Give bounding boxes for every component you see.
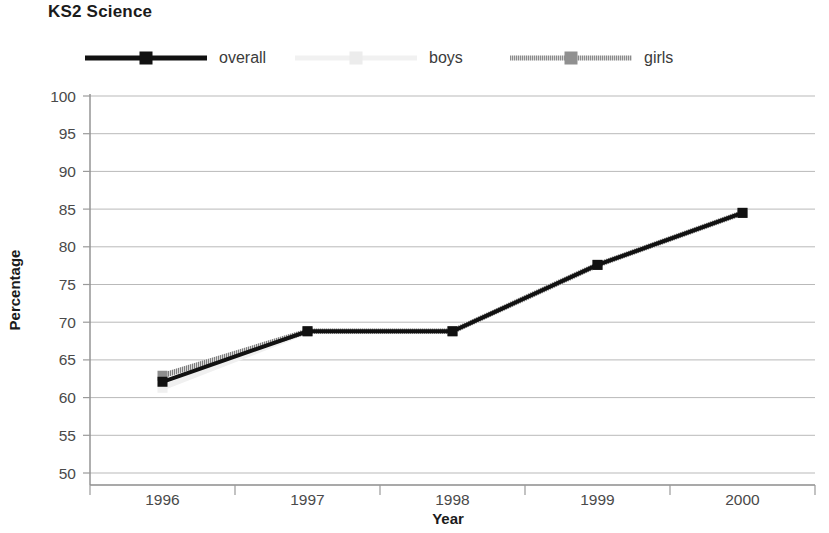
y-tick-label: 70 [59,314,77,331]
plot-area: 50556065707580859095100 1996199719981999… [0,0,829,533]
data-point-overall-1998 [448,326,458,336]
data-point-overall-1996 [158,377,168,387]
x-axis-ticks: 19961997199819992000 [90,485,815,508]
x-tick-label: 1997 [290,491,324,508]
x-axis-title: Year [432,510,464,527]
x-tick-label: 1996 [145,491,179,508]
y-tick-label: 55 [59,427,76,444]
y-tick-label: 65 [59,351,76,368]
y-tick-label: 90 [59,163,77,180]
gridlines [90,96,815,473]
axis-lines [90,94,815,485]
y-tick-label: 50 [59,465,77,482]
y-tick-label: 85 [59,201,76,218]
y-tick-label: 80 [59,238,77,255]
y-tick-label: 60 [59,389,77,406]
x-tick-label: 2000 [725,491,760,508]
series-line-boys [163,213,743,388]
chart-container: KS2 Science overall boys girls [0,0,829,533]
data-point-overall-1997 [303,326,313,336]
y-tick-label: 75 [59,276,76,293]
y-axis-title: Percentage [6,250,23,331]
y-axis-ticks: 50556065707580859095100 [50,88,90,482]
x-tick-label: 1999 [580,491,614,508]
data-point-overall-1999 [593,260,603,270]
y-tick-label: 95 [59,125,76,142]
x-tick-label: 1998 [435,491,469,508]
y-tick-label: 100 [50,88,76,105]
data-point-overall-2000 [738,208,748,218]
data-series [158,208,748,393]
